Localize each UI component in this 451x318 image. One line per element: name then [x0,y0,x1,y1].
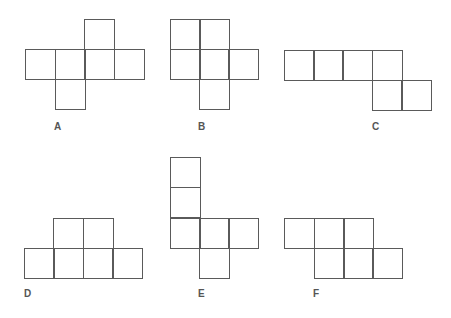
unit-square [284,50,315,81]
unit-square [284,218,315,249]
unit-square [313,50,344,81]
unit-square [170,19,201,50]
unit-square [55,49,86,80]
unit-square [372,248,403,279]
unit-square [199,79,230,110]
unit-square [314,248,345,279]
unit-square [170,49,201,80]
net-label-c: C [372,122,379,132]
unit-square [53,248,84,279]
net-label-d: D [24,289,31,299]
unit-square [84,19,115,50]
unit-square [199,218,230,249]
unit-square [83,218,114,249]
net-label-e: E [198,289,205,299]
unit-square [53,218,84,249]
net-label-f: F [313,289,319,299]
unit-square [170,157,201,188]
unit-square [25,49,56,80]
unit-square [199,248,230,279]
unit-square [342,50,373,81]
unit-square [24,248,55,279]
unit-square [114,49,145,80]
unit-square [55,79,86,110]
unit-square [170,218,201,249]
net-label-a: A [54,122,61,132]
unit-square [170,187,201,218]
unit-square [228,49,259,80]
unit-square [372,50,403,81]
unit-square [314,218,345,249]
unit-square [343,248,374,279]
unit-square [199,49,230,80]
unit-square [83,248,114,279]
net-label-b: B [198,122,205,132]
unit-square [199,19,230,50]
unit-square [401,80,432,111]
unit-square [112,248,143,279]
unit-square [372,80,403,111]
unit-square [343,218,374,249]
unit-square [228,218,259,249]
unit-square [84,49,115,80]
